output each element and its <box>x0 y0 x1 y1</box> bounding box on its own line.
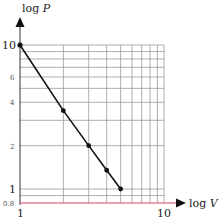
x-tick-label-1: 1 <box>17 207 24 220</box>
y-tick-label-2: 2 <box>10 143 14 151</box>
data-point-marker <box>86 143 91 148</box>
data-point-marker <box>104 168 109 173</box>
x-axis-arrow-icon <box>176 199 186 208</box>
y-tick-label-4: 4 <box>10 99 15 107</box>
y-axis-arrow-icon <box>16 17 25 27</box>
y-axis-title: log P <box>22 2 51 15</box>
data-point-marker <box>118 187 123 192</box>
data-point-marker <box>61 108 66 113</box>
y-tick-label-1: 1 <box>9 183 16 196</box>
x-tick-label-10: 10 <box>157 207 171 220</box>
y-tick-label-10: 10 <box>2 39 16 52</box>
series-line <box>20 45 121 189</box>
x-axis-title: log V <box>189 197 219 210</box>
log-log-chart: log P log V 10 6 4 2 1 0.8 1 10 <box>0 0 221 221</box>
grid-lines <box>20 45 164 203</box>
y-tick-label-6: 6 <box>10 74 15 82</box>
data-series <box>17 42 123 191</box>
y-tick-label-0-8: 0.8 <box>3 200 14 208</box>
data-point-marker <box>17 42 22 47</box>
